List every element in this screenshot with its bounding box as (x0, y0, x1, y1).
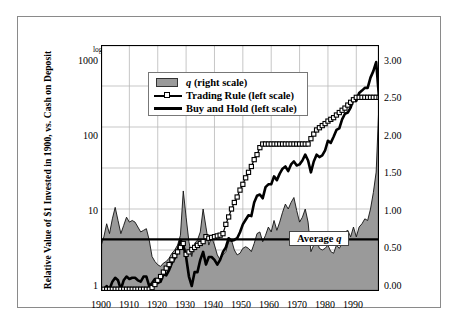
legend-label-trading-rule: Trading Rule (left scale) (186, 90, 294, 101)
y2-axis-tick-3.00: 3.00 (384, 56, 424, 66)
y2-axis-tick-1.50: 1.50 (384, 168, 424, 178)
x-axis-tick-1990: 1990 (333, 300, 373, 310)
average-q-annotation: Average q (289, 231, 349, 246)
y-axis-tick-10: 10 (64, 206, 98, 216)
y2-axis-tick-1.00: 1.00 (384, 206, 424, 216)
chart-frame: Relative Value of $1 Invested in 1900, v… (17, 16, 441, 308)
y2-axis-tick-2.50: 2.50 (384, 93, 424, 103)
y-axis-tick-1: 1 (64, 281, 98, 291)
thick-line-icon (154, 103, 182, 114)
y2-axis-tick-0.50: 0.50 (384, 243, 424, 253)
chart-legend: q (right scale) Trading Rule (left scale… (148, 72, 308, 116)
y-axis-tick-1000: 1000 (64, 56, 98, 66)
y-axis-tick-100: 100 (64, 131, 98, 141)
y-axis-title: Relative Value of $1 Invested in 1900, v… (43, 46, 53, 294)
legend-label-buy-and-hold: Buy and Hold (left scale) (186, 103, 297, 114)
area-swatch-icon (154, 77, 182, 88)
legend-item-trading-rule: Trading Rule (left scale) (154, 89, 302, 102)
y2-axis-tick-0.00: 0.00 (384, 281, 424, 291)
legend-item-buy-and-hold: Buy and Hold (left scale) (154, 102, 302, 115)
y2-axis-tick-2.00: 2.00 (384, 131, 424, 141)
legend-label-q: q (right scale) (186, 77, 247, 88)
line-square-marker-icon (154, 90, 182, 101)
legend-item-q: q (right scale) (154, 76, 302, 89)
